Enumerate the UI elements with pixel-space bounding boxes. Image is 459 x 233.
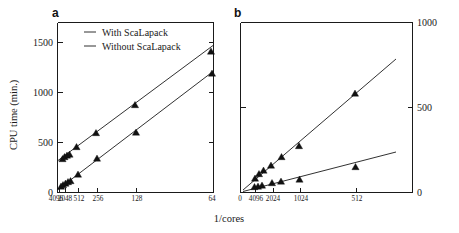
panel-b-ytick-500: 500 (417, 102, 432, 113)
panel-a-xtick-128: 128 (132, 195, 143, 203)
panel-b-fit-without-scalapack (243, 59, 396, 190)
legend-label-with: With ScaLapack (102, 27, 168, 38)
y-axis-title: CPU time (min.) (8, 79, 20, 150)
panel-a-xtick-2048: 2048 (58, 195, 73, 203)
panel-a-letter: a (52, 6, 59, 20)
panel-b-xtick-0: 0 (238, 195, 242, 203)
legend: With ScaLapack Without ScaLapack (84, 27, 181, 52)
panel-b-series-with-scalapack (251, 164, 359, 190)
panel-b-letter: b (234, 6, 241, 20)
panel-a-series-without-scalapack (59, 48, 215, 162)
panel-b-xtick-4096: 4096 (249, 195, 264, 203)
panel-a-xtick-64: 64 (208, 195, 216, 203)
panel-b-series-without-scalapack (251, 90, 358, 181)
panel-a-ytick-1000: 1000 (33, 87, 53, 98)
panel-b-xtick-512: 512 (352, 195, 363, 203)
panel-a-xtick-512: 512 (74, 195, 85, 203)
panel-a-y-ticks (58, 43, 214, 193)
panel-a-ytick-1500: 1500 (33, 37, 53, 48)
x-axis-title: 1/cores (214, 213, 244, 224)
figure-root: a 0 500 1000 1500 CPU time (min.) (0, 0, 459, 233)
panel-b-xtick-2024: 2024 (266, 195, 281, 203)
panel-b-ytick-1000: 1000 (417, 17, 437, 28)
panel-b-ytick-0: 0 (417, 187, 422, 198)
figure-canvas: a 0 500 1000 1500 CPU time (min.) (0, 0, 459, 233)
panel-a-xtick-256: 256 (93, 195, 104, 203)
panel-b: b 0 500 1000 0 4096 2024 (234, 6, 437, 203)
panel-b-y-ticks (241, 23, 413, 193)
panel-a-ytick-500: 500 (38, 137, 53, 148)
panel-b-xtick-1024: 1024 (294, 195, 309, 203)
legend-label-without: Without ScaLapack (102, 41, 181, 52)
panel-a-x-ticks (60, 188, 214, 193)
panel-a: a 0 500 1000 1500 CPU time (min.) (8, 6, 216, 203)
